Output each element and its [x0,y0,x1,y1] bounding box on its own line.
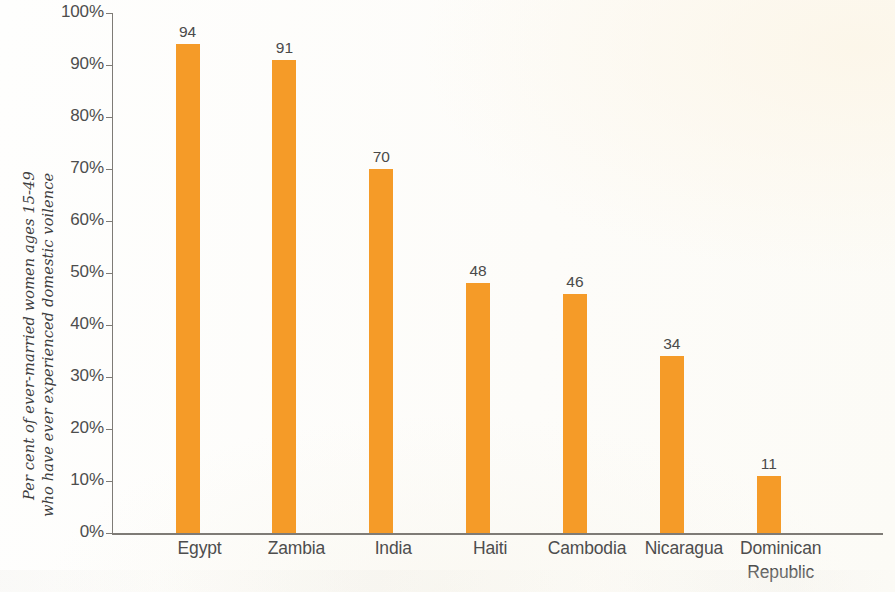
y-axis-tick-labels: 100%90%80%70%60%50%40%30%20%10%0% [46,0,104,560]
bar-value-label: 94 [160,23,216,41]
y-axis-title-line-1: Per cent of ever-married women ages 15-4… [20,171,37,500]
bar-rect[interactable] [466,283,490,533]
y-axis-tick-label: 70% [46,158,104,178]
bar-rect[interactable] [369,169,393,533]
y-axis-tick-label: 100% [46,2,104,22]
x-axis-category-label-line: Dominican [740,538,821,558]
x-axis-category-label-line: Egypt [178,538,222,558]
y-axis-tick-label: 20% [46,418,104,438]
x-axis-category-labels: EgyptZambiaIndiaHaitiCambodiaNicaraguaDo… [112,536,883,592]
bar-rect[interactable] [272,60,296,533]
x-axis-category-label-line: Haiti [473,538,507,558]
x-axis-category-label[interactable]: DominicanRepublic [706,536,856,584]
y-axis-tick-label: 0% [46,522,104,542]
y-axis-title: Per cent of ever-married women ages 15-4… [0,0,46,540]
bar-rect[interactable] [660,356,684,533]
y-axis-tick-mark [106,533,113,534]
y-axis-tick-label: 50% [46,262,104,282]
y-axis-tick-label: 90% [46,54,104,74]
bar-value-label: 48 [450,262,506,280]
y-axis-tick-label: 10% [46,470,104,490]
plot-area: 94917048463411 [112,13,883,533]
bar-value-label: 70 [353,148,409,166]
bar-value-label: 11 [741,455,797,473]
y-axis-tick-label: 80% [46,106,104,126]
x-axis-category-label-line: Republic [706,560,856,584]
y-axis-tick-label: 40% [46,314,104,334]
bar-value-label: 34 [644,335,700,353]
bar-rect[interactable] [563,294,587,533]
y-axis-tick-label: 30% [46,366,104,386]
bar-value-label: 91 [256,39,312,57]
y-axis-tick-label: 60% [46,210,104,230]
bar-chart-figure: Per cent of ever-married women ages 15-4… [0,0,895,592]
x-axis-category-label-line: India [375,538,412,558]
bar-rect[interactable] [176,44,200,533]
bar-value-label: 46 [547,273,603,291]
bar-rect[interactable] [757,476,781,533]
x-axis-category-label-line: Zambia [268,538,325,558]
